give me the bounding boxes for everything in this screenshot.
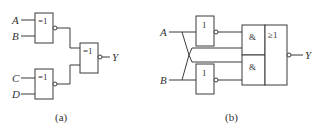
gate-symbol: & [249, 62, 256, 72]
caption-b: (b) [225, 111, 238, 124]
gate-symbol: ≥1 [268, 30, 277, 40]
gate-symbol: 1 [202, 68, 207, 78]
input-label-d: D [11, 88, 20, 100]
input-label-b: B [12, 30, 19, 42]
output-label-y: Y [112, 51, 120, 63]
gate-symbol: 1 [202, 20, 207, 30]
logic-diagrams: A B C D =1 =1 =1 Y (a) A B [0, 0, 324, 134]
wire-g1-to-g3 [57, 28, 80, 48]
gate-symbol: =1 [38, 16, 48, 26]
input-label-a: A [159, 26, 167, 38]
inversion-bubble [214, 30, 218, 34]
inversion-bubble [53, 26, 57, 30]
caption-a: (a) [55, 111, 68, 124]
inversion-bubble [214, 78, 218, 82]
output-label-y: Y [305, 49, 313, 61]
inversion-bubble [287, 53, 291, 57]
gate-symbol: & [249, 32, 256, 42]
gate-symbol: =1 [83, 46, 93, 56]
wire-g2-to-g3 [57, 65, 80, 84]
input-label-b: B [160, 74, 167, 86]
diagram-b: A B 1 1 & & ≥1 Y (b) [159, 16, 313, 124]
inversion-bubble [98, 55, 102, 59]
gate-symbol: =1 [38, 72, 48, 82]
input-label-a: A [11, 14, 19, 26]
input-label-c: C [12, 72, 20, 84]
inversion-bubble [53, 82, 57, 86]
diagram-a: A B C D =1 =1 =1 Y (a) [11, 13, 120, 124]
